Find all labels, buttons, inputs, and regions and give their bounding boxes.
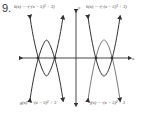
y-axis-label: y: [77, 5, 81, 10]
x-axis-label: x: [131, 56, 135, 61]
intersection-point: [111, 57, 114, 60]
intersection-point: [37, 57, 40, 60]
curve-left-up: [30, 17, 63, 76]
intersection-point: [54, 57, 57, 60]
curve-right-up: [88, 17, 120, 76]
curve-left-down: [30, 40, 63, 100]
graph: x y: [0, 0, 145, 116]
intersection-point: [95, 57, 98, 60]
curve-right-down: [88, 40, 120, 100]
